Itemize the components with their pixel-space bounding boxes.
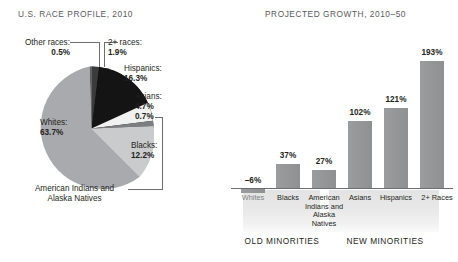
pie-label-asians-name: Asians: xyxy=(135,92,162,102)
bracket-amerind-vertical xyxy=(162,117,163,189)
pie-label-two-plus-races-value: 1.9% xyxy=(108,48,142,58)
bar-value-american-indians: 27% xyxy=(306,157,342,166)
pie-chart-title: U.S. RACE PROFILE, 2010 xyxy=(18,9,133,19)
pie-label-amerind-line1: American Indians and xyxy=(22,184,127,194)
pie-label-hispanics-value: 16.3% xyxy=(124,74,162,84)
pie-label-hispanics: Hispanics: 16.3% xyxy=(124,64,162,85)
race-profile-pie-panel: U.S. RACE PROFILE, 2010 xyxy=(0,0,229,262)
pie-label-two-plus-races: 2+ races: 1.9% xyxy=(108,38,142,59)
pie-label-blacks-name: Blacks: xyxy=(131,141,157,151)
category-label-hispanics: Hispanics xyxy=(371,194,421,203)
pie-label-amerind-line2: Alaska Natives xyxy=(22,194,127,204)
leader-line-two-plus-vertical xyxy=(104,42,105,67)
pie-label-american-indians-name: American Indians and Alaska Natives xyxy=(22,184,127,205)
pie-label-two-plus-races-name: 2+ races: xyxy=(108,38,142,48)
pie-label-american-indians-value: 0.7% xyxy=(135,112,154,122)
pie-label-whites-name: Whites: xyxy=(40,118,67,128)
pie-label-blacks-value: 12.2% xyxy=(131,151,157,161)
bar-hispanics xyxy=(384,108,408,188)
bar-two-plus-races xyxy=(420,61,444,188)
bar-value-two-plus-races: 193% xyxy=(414,48,450,57)
group-label-new-minorities: NEW MINORITIES xyxy=(329,236,441,246)
pie-label-other-races-name: Other races: xyxy=(8,38,70,48)
pie-label-other-races-value: 0.5% xyxy=(8,48,70,58)
bar-chart-plot: –6% 37% 27% 102% 121% 193% Whites Blacks… xyxy=(229,0,458,262)
bar-value-whites: –6% xyxy=(235,176,271,185)
pie-label-blacks: Blacks: 12.2% xyxy=(131,141,157,162)
pie-label-whites: Whites: 63.7% xyxy=(40,118,67,139)
leader-line-other-races-horizontal xyxy=(70,42,100,43)
pie-label-hispanics-name: Hispanics: xyxy=(124,64,162,74)
bar-value-blacks: 37% xyxy=(270,151,306,160)
pie-label-asians: Asians: 4.7% xyxy=(135,92,162,113)
bar-blacks xyxy=(276,164,300,188)
pie-label-amerind-value: 0.7% xyxy=(135,112,154,122)
pie-label-whites-value: 63.7% xyxy=(40,128,67,138)
bar-american-indians xyxy=(312,170,336,188)
bar-value-hispanics: 121% xyxy=(378,95,414,104)
bar-asians xyxy=(348,121,372,188)
projected-growth-bar-panel: PROJECTED GROWTH, 2010–50 –6% 37% 27% 10… xyxy=(229,0,458,262)
pie-label-other-races: Other races: 0.5% xyxy=(8,38,70,59)
leader-line-other-races-vertical xyxy=(99,42,100,67)
bracket-amerind-top-tick xyxy=(155,117,163,118)
bar-value-asians: 102% xyxy=(342,108,378,117)
group-label-old-minorities: OLD MINORITIES xyxy=(239,236,325,246)
category-label-two-plus-races: 2+ Races xyxy=(415,194,458,203)
